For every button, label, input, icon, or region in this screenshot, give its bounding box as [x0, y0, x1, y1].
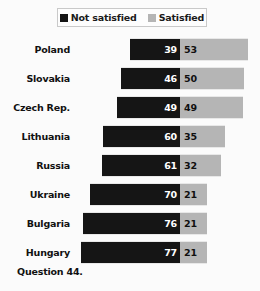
chart-row: Hungary7721 [0, 241, 260, 264]
chart-row: Bulgaria7621 [0, 212, 260, 235]
category-label-czech-rep: Czech Rep. [0, 96, 70, 119]
category-label-poland: Poland [0, 38, 70, 61]
value-not-satisfied: 70 [140, 183, 177, 206]
chart-row: Lithuania6035 [0, 125, 260, 148]
value-not-satisfied: 77 [140, 241, 177, 264]
legend-label-satisfied: Satisfied [159, 12, 205, 23]
legend-label-not-satisfied: Not satisfied [71, 12, 137, 23]
legend-item-satisfied: Satisfied [148, 12, 205, 23]
value-not-satisfied: 49 [140, 96, 177, 119]
chart-row: Czech Rep.4949 [0, 96, 260, 119]
value-satisfied: 21 [184, 183, 214, 206]
chart-row: Russia6132 [0, 154, 260, 177]
legend-swatch-satisfied-icon [148, 14, 156, 22]
value-satisfied: 53 [184, 38, 214, 61]
value-not-satisfied: 76 [140, 212, 177, 235]
chart-plot-area: Poland3953Slovakia4650Czech Rep.4949Lith… [0, 38, 260, 270]
value-satisfied: 35 [184, 125, 214, 148]
category-label-bulgaria: Bulgaria [0, 212, 70, 235]
chart-footnote: Question 44. [17, 266, 83, 277]
legend-swatch-not-satisfied-icon [60, 14, 68, 22]
category-label-ukraine: Ukraine [0, 183, 70, 206]
value-satisfied: 49 [184, 96, 214, 119]
category-label-slovakia: Slovakia [0, 67, 70, 90]
value-satisfied: 50 [184, 67, 214, 90]
chart-row: Ukraine7021 [0, 183, 260, 206]
chart-row: Slovakia4650 [0, 67, 260, 90]
category-label-lithuania: Lithuania [0, 125, 70, 148]
category-label-hungary: Hungary [0, 241, 70, 264]
legend-item-not-satisfied: Not satisfied [60, 12, 137, 23]
value-not-satisfied: 46 [140, 67, 177, 90]
chart-row: Poland3953 [0, 38, 260, 61]
value-not-satisfied: 60 [140, 125, 177, 148]
chart-legend: Not satisfied Satisfied [57, 8, 207, 27]
value-satisfied: 21 [184, 241, 214, 264]
category-label-russia: Russia [0, 154, 70, 177]
value-satisfied: 32 [184, 154, 214, 177]
value-satisfied: 21 [184, 212, 214, 235]
value-not-satisfied: 39 [140, 38, 177, 61]
value-not-satisfied: 61 [140, 154, 177, 177]
